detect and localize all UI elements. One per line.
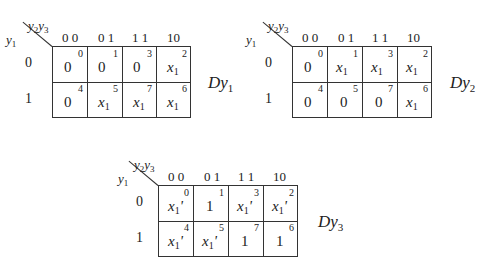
- col-header: 1 1: [238, 169, 254, 185]
- kmap-cell: 07: [362, 82, 397, 117]
- col-variables-label: y2y3: [134, 157, 155, 174]
- row-variable-label: y1: [6, 32, 16, 49]
- kmap-cell: x16: [397, 82, 432, 117]
- row-variable-label: y1: [118, 171, 128, 188]
- col-header: 0 0: [302, 30, 318, 46]
- kmap-grid: 00 01 03 x12 04 x15 x17 x16: [52, 46, 191, 118]
- kmap-cell: x13: [362, 47, 397, 82]
- col-header: 0 1: [204, 169, 220, 185]
- kmap-cell: 00: [53, 47, 87, 82]
- kmap-grid: 00 x11 x13 x12 04 05 07 x16: [292, 46, 432, 118]
- kmap-cell: x16: [156, 82, 191, 117]
- function-label: Dy1: [208, 73, 233, 94]
- row-header: 0: [265, 55, 272, 71]
- kmap-cell: 11: [193, 186, 228, 221]
- function-label: Dy3: [318, 212, 343, 233]
- kmap-cell: x1'3: [228, 186, 263, 221]
- col-header: 0 1: [338, 30, 354, 46]
- kmap-cell: x11: [327, 47, 362, 82]
- kmap-cell: 04: [53, 82, 87, 117]
- row-header: 0: [25, 55, 32, 71]
- function-label: Dy2: [450, 73, 475, 94]
- kmap-cell: 00: [293, 47, 327, 82]
- kmap-grid: x1'0 11 x1'3 x1'2 x1'4 x1'5 17 16: [158, 185, 298, 257]
- col-header: 10: [167, 30, 180, 46]
- kmap-cell: x17: [122, 82, 156, 117]
- kmap-cell: x1'5: [193, 221, 228, 256]
- kmap-cell: x1'0: [159, 186, 193, 221]
- kmap-cell: 01: [87, 47, 122, 82]
- col-variables-label: y2y3: [28, 18, 49, 35]
- col-header: 0 0: [168, 169, 184, 185]
- kmap-dy3: y2y3 y1 0 0 0 1 1 1 10 0 1 x1'0 11 x1'3 …: [158, 185, 298, 257]
- row-header: 0: [136, 194, 143, 210]
- col-header: 0 1: [98, 30, 114, 46]
- col-header: 10: [407, 30, 420, 46]
- col-variables-label: y2y3: [268, 18, 289, 35]
- kmap-cell: x1'2: [263, 186, 298, 221]
- row-variable-label: y1: [246, 32, 256, 49]
- col-header: 1 1: [132, 30, 148, 46]
- kmap-cell: x12: [156, 47, 191, 82]
- row-header: 1: [265, 91, 272, 107]
- kmap-dy1: y2y3 y1 0 0 0 1 1 1 10 0 1 00 01 03 x12 …: [52, 46, 191, 118]
- row-header: 1: [25, 91, 32, 107]
- col-header: 10: [273, 169, 286, 185]
- kmap-cell: 03: [122, 47, 156, 82]
- kmap-cell: 17: [228, 221, 263, 256]
- kmap-dy2: y2y3 y1 0 0 0 1 1 1 10 0 1 00 x11 x13 x1…: [292, 46, 432, 118]
- kmap-cell: x15: [87, 82, 122, 117]
- kmap-cell: 05: [327, 82, 362, 117]
- kmap-cell: 04: [293, 82, 327, 117]
- col-header: 0 0: [62, 30, 78, 46]
- kmap-cell: x12: [397, 47, 432, 82]
- kmap-cell: x1'4: [159, 221, 193, 256]
- row-header: 1: [136, 230, 143, 246]
- kmap-cell: 16: [263, 221, 298, 256]
- col-header: 1 1: [372, 30, 388, 46]
